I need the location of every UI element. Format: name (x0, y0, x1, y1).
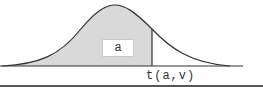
bottom-rule (0, 85, 263, 87)
area-label: a (102, 39, 134, 57)
critical-value-label: t(a,v) (146, 69, 195, 83)
